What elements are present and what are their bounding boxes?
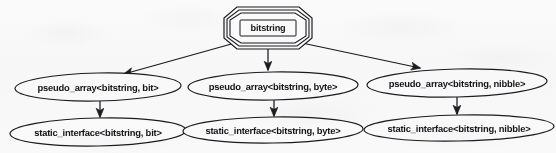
pseudo-array-bit-label: pseudo_array<bitstring, bit> bbox=[38, 82, 159, 93]
static-interface-nibble-label: static_interface<bitstring, nibble> bbox=[387, 123, 530, 134]
class-hierarchy-diagram: bitstring pseudo_array<bitstring, bit> p… bbox=[0, 0, 556, 153]
root-node-label: bitstring bbox=[251, 23, 286, 33]
edge-root-to-nibble bbox=[302, 43, 420, 68]
static-interface-byte-label: static_interface<bitstring, byte> bbox=[205, 125, 340, 136]
static-interface-bit-label: static_interface<bitstring, bit> bbox=[34, 127, 162, 138]
pseudo-array-nibble-label: pseudo_array<bitstring, nibble> bbox=[389, 78, 526, 89]
edge-root-to-bit bbox=[124, 43, 235, 74]
pseudo-array-byte-label: pseudo_array<bitstring, byte> bbox=[209, 81, 338, 92]
